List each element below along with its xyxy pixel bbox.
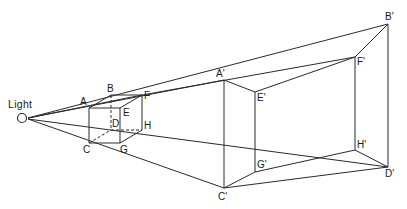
label-a: A [80,97,87,107]
label-c-prime: C' [218,192,227,202]
label-f: F [144,91,150,101]
label-c: C [83,145,90,155]
label-f-prime: F' [357,57,365,67]
label-g: G [120,145,128,155]
light-label: Light [8,99,32,110]
label-e-prime: E' [257,93,266,103]
label-b-prime: B' [385,12,394,22]
label-a-prime: A' [216,69,225,79]
label-h: H [144,121,151,131]
label-d-prime: D' [385,169,394,179]
label-d: D [112,119,119,129]
label-b: B [107,84,114,94]
label-h-prime: H' [357,140,366,150]
light-source-icon [18,114,27,123]
label-g-prime: G' [257,160,267,170]
label-e: E [123,108,130,118]
diagram-canvas: Light A B F E D H C G A' B' E' F' G' H' … [0,0,407,209]
projection-drawing [0,0,407,209]
